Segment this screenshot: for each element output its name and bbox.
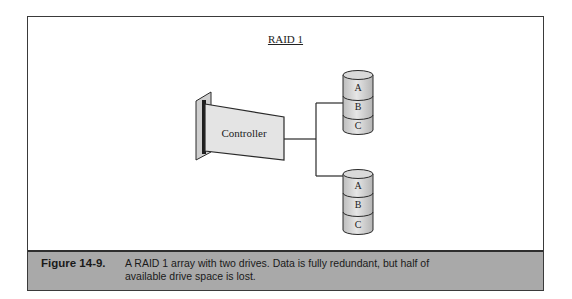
drive-1-segment-c: C — [355, 120, 362, 131]
drive-2-segment-c: C — [355, 219, 362, 230]
drive-1-segment-a: A — [354, 82, 362, 93]
drive-1-segment-b: B — [355, 101, 362, 112]
controller-card: Controller — [196, 92, 284, 160]
drive-2-segment-a: A — [354, 180, 362, 191]
drive-2-segment-b: B — [355, 199, 362, 210]
raid1-diagram: Controller A B C A B C — [0, 0, 572, 299]
controller-label: Controller — [221, 127, 267, 139]
drive-2: A B C — [343, 170, 373, 235]
connector-lines — [284, 103, 344, 176]
drive-1: A B C — [343, 71, 373, 135]
